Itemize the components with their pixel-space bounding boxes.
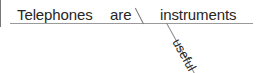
diagram-baseline <box>10 23 253 24</box>
modifier-word: useful <box>170 36 198 73</box>
subject-predicate-divider <box>0 0 1 27</box>
complement-word: instruments <box>160 7 236 22</box>
verb-complement-divider <box>135 8 144 24</box>
sentence-diagram: Telephones are instruments useful <box>0 0 263 73</box>
verb-word: are <box>110 7 131 22</box>
subject-word: Telephones <box>17 7 93 22</box>
